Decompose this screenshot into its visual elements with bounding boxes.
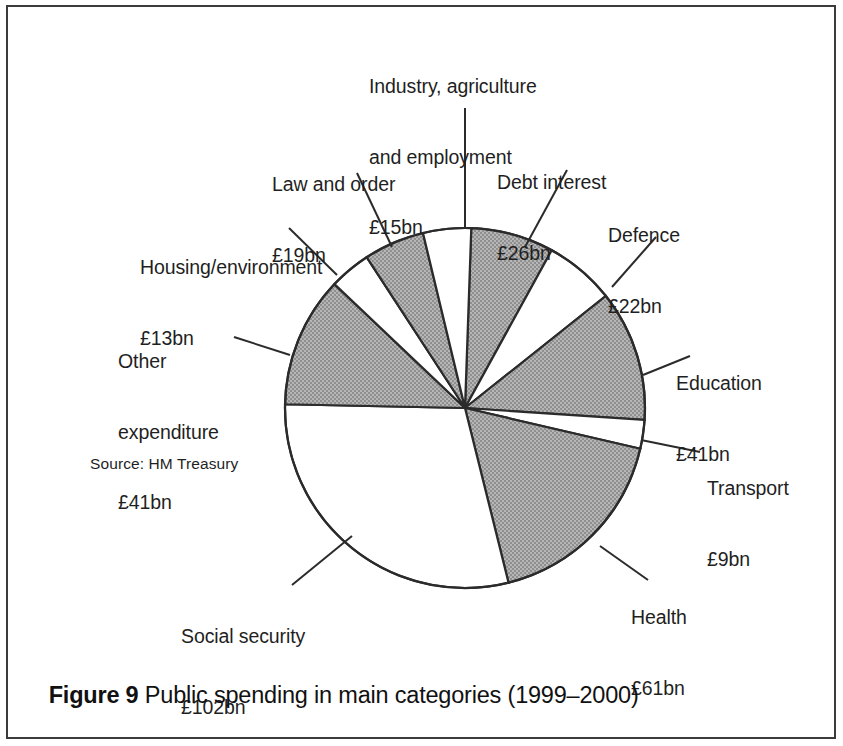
slice-label-debt-interest: Debt interest £26bn [497, 124, 606, 312]
slice-label-other-expenditure-value: £41bn [118, 491, 219, 515]
figure-caption-label: Figure 9 [49, 682, 139, 708]
slice-label-law-and-order: Law and order £19bn [272, 126, 395, 314]
slice-label-transport-value: £9bn [707, 548, 789, 572]
slice-label-social-security-line1: Social security [181, 625, 305, 649]
slice-label-debt-interest-line1: Debt interest [497, 171, 606, 195]
slice-label-defence-line1: Defence [608, 224, 680, 248]
pie-chart: Industry, agriculture and employment £15… [0, 0, 843, 746]
slice-label-education-line1: Education [676, 372, 762, 396]
slice-label-health-line1: Health [631, 606, 687, 630]
slice-label-housing-environment-value: £13bn [140, 327, 322, 351]
figure-caption: Figure 9 Public spending in main categor… [36, 655, 806, 709]
slice-label-transport: Transport £9bn [707, 430, 789, 618]
slice-label-debt-interest-value: £26bn [497, 242, 606, 266]
slice-label-law-and-order-value: £19bn [272, 244, 395, 268]
slice-label-industry-line1: Industry, agriculture [369, 75, 537, 99]
slice-label-transport-line1: Transport [707, 477, 789, 501]
slice-label-defence-value: £22bn [608, 295, 680, 319]
figure-caption-text: Public spending in main categories (1999… [138, 682, 638, 708]
source-note: Source: HM Treasury [90, 455, 238, 473]
slice-label-health: Health £61bn [631, 559, 687, 746]
slice-label-other-expenditure-line2: expenditure [118, 421, 219, 445]
slice-label-defence: Defence £22bn [608, 177, 680, 365]
slice-label-law-and-order-line1: Law and order [272, 173, 395, 197]
